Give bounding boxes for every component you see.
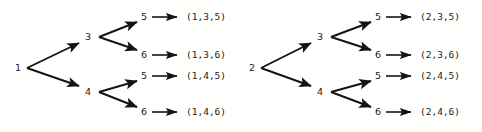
tree-leaf-node: 6 — [375, 49, 381, 60]
tree-branch-node: 3 — [317, 31, 323, 42]
tree-branch-node: 4 — [317, 86, 323, 97]
outcome-tuple: (2,3,6) — [420, 49, 460, 60]
edge-branch-to-leaf — [331, 22, 371, 37]
tree-leaf-node: 5 — [141, 70, 147, 81]
edge-branch-to-leaf — [99, 37, 137, 50]
edge-branch-to-leaf — [99, 22, 137, 37]
outcome-tuple: (2,4,5) — [420, 70, 460, 81]
outcome-tuple: (2,4,6) — [420, 106, 460, 117]
tree-labels-group: 135(1,3,5)6(1,3,6)45(1,4,5)6(1,4,6)235(2… — [15, 11, 460, 117]
tree-root-node: 2 — [249, 62, 255, 73]
outcome-tuple: (1,3,6) — [186, 49, 226, 60]
tree-leaf-node: 6 — [141, 106, 147, 117]
edge-branch-to-leaf — [99, 92, 137, 107]
edge-branch-to-leaf — [331, 92, 371, 107]
edge-branch-to-leaf — [99, 81, 137, 92]
outcome-tuple: (1,4,5) — [186, 70, 226, 81]
tree-leaf-node: 5 — [375, 11, 381, 22]
tree-leaf-node: 5 — [375, 70, 381, 81]
tree-diagram-svg: 135(1,3,5)6(1,3,6)45(1,4,5)6(1,4,6)235(2… — [0, 0, 482, 132]
edge-root-to-branch — [27, 43, 79, 68]
tree-branch-node: 4 — [85, 86, 91, 97]
tree-leaf-node: 6 — [375, 106, 381, 117]
outcome-tuple: (2,3,5) — [420, 11, 460, 22]
tree-root-node: 1 — [15, 62, 21, 73]
edge-root-to-branch — [27, 68, 79, 86]
diagram-canvas: 135(1,3,5)6(1,3,6)45(1,4,5)6(1,4,6)235(2… — [0, 0, 482, 132]
edge-branch-to-leaf — [331, 81, 371, 92]
edge-branch-to-leaf — [331, 37, 371, 50]
edge-root-to-branch — [261, 68, 311, 86]
tree-leaf-node: 6 — [141, 49, 147, 60]
tree-leaf-node: 5 — [141, 11, 147, 22]
edge-root-to-branch — [261, 43, 311, 68]
outcome-tuple: (1,4,6) — [186, 106, 226, 117]
tree-branch-node: 3 — [85, 31, 91, 42]
outcome-tuple: (1,3,5) — [186, 11, 226, 22]
